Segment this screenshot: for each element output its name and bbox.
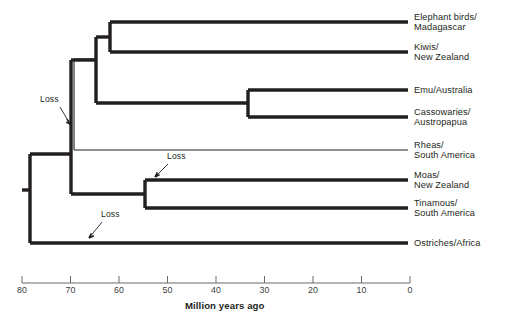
axis-tick-label-30: 30 <box>255 285 275 295</box>
annotation-loss-2: Loss <box>167 151 186 161</box>
tip-label-tinamous: Tinamous/ South America <box>414 198 475 219</box>
tip-label-cassowaries: Cassowaries/ Austropapua <box>414 107 470 128</box>
axis-tick-label-70: 70 <box>61 285 81 295</box>
loss-arrow-2-line <box>155 164 168 177</box>
phylogenetic-tree-figure: Elephant birds/ Madagascar Kiwis/ New Ze… <box>0 0 505 317</box>
axis-tick-label-40: 40 <box>206 285 226 295</box>
bold-lineage-group <box>22 22 408 243</box>
tip-label-rheas: Rheas/ South America <box>414 140 475 161</box>
annotation-loss-3: Loss <box>101 209 120 219</box>
axis-tick-label-0: 0 <box>400 285 420 295</box>
axis-tick-label-50: 50 <box>158 285 178 295</box>
axis-group <box>22 276 410 283</box>
tip-label-elephant-birds: Elephant birds/ Madagascar <box>414 12 477 33</box>
axis-title: Million years ago <box>185 300 265 311</box>
tip-label-ostriches: Ostriches/Africa <box>414 238 480 248</box>
tip-label-emu: Emu/Australia <box>414 85 473 95</box>
axis-tick-label-80: 80 <box>12 285 32 295</box>
axis-tick-label-10: 10 <box>352 285 372 295</box>
axis-tick-label-20: 20 <box>303 285 323 295</box>
annotation-loss-1: Loss <box>40 94 59 104</box>
axis-tick-label-60: 60 <box>109 285 129 295</box>
tip-label-kiwis: Kiwis/ New Zealand <box>414 42 469 63</box>
tip-label-moas: Moas/ New Zealand <box>414 170 469 191</box>
